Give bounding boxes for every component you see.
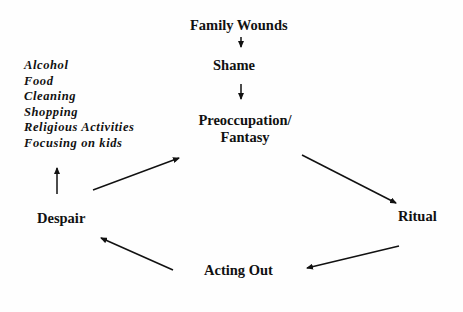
- node-ritual: Ritual: [398, 208, 437, 225]
- list-item: Shopping: [24, 105, 135, 121]
- coping-behaviors-list: Alcohol Food Cleaning Shopping Religious…: [24, 58, 135, 151]
- arrow-ritual-to-acting-out: [307, 246, 399, 268]
- list-item: Cleaning: [24, 89, 135, 105]
- node-preoccupation-fantasy: Preoccupation/ Fantasy: [187, 112, 303, 146]
- preoccupation-line2: Fantasy: [187, 129, 303, 146]
- node-despair: Despair: [37, 210, 85, 227]
- list-item: Alcohol: [24, 58, 135, 74]
- list-item: Focusing on kids: [24, 136, 135, 152]
- arrow-preoccupation-to-ritual: [302, 155, 396, 203]
- addiction-cycle-diagram: Family Wounds Shame Preoccupation/ Fanta…: [0, 0, 463, 312]
- list-item: Food: [24, 74, 135, 90]
- preoccupation-line1: Preoccupation/: [187, 112, 303, 129]
- node-family-wounds: Family Wounds: [190, 17, 288, 34]
- arrow-acting-out-to-despair: [101, 238, 173, 270]
- node-acting-out: Acting Out: [204, 262, 273, 279]
- node-shame: Shame: [213, 57, 255, 74]
- arrow-despair-to-preoccupation: [93, 158, 179, 190]
- list-item: Religious Activities: [24, 120, 135, 136]
